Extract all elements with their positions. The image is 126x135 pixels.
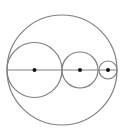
center-point-1 bbox=[33, 68, 37, 72]
tangent-circles-diagram bbox=[0, 0, 126, 135]
center-point-2 bbox=[78, 68, 82, 72]
center-point-3 bbox=[106, 68, 110, 72]
